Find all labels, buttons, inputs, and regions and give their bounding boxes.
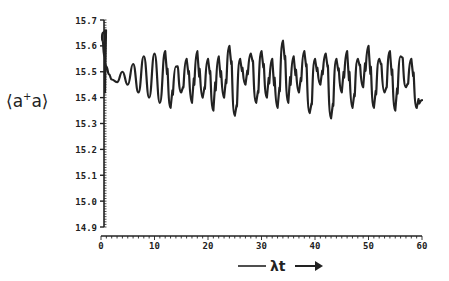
x-tick-label: 0 bbox=[98, 241, 103, 251]
x-axis-label-group: λt bbox=[238, 258, 323, 274]
x-tick-label: 20 bbox=[203, 241, 214, 251]
y-axis-label: ⟨a+a⟩ bbox=[6, 91, 49, 111]
y-tick-label: 15.2 bbox=[75, 145, 97, 155]
y-tick-label: 15.7 bbox=[75, 16, 97, 26]
x-tick-label: 50 bbox=[363, 241, 374, 251]
y-tick-label: 15.0 bbox=[75, 197, 97, 207]
data-series-line bbox=[102, 30, 422, 118]
x-tick-label: 30 bbox=[256, 241, 267, 251]
line-chart: 14.915.015.115.215.315.415.515.615.7 010… bbox=[0, 0, 449, 281]
y-tick-label: 14.9 bbox=[75, 223, 97, 233]
x-axis: 0102030405060 bbox=[98, 236, 427, 251]
y-axis: 14.915.015.115.215.315.415.515.615.7 bbox=[75, 16, 106, 233]
x-tick-label: 10 bbox=[149, 241, 160, 251]
y-tick-label: 15.6 bbox=[75, 41, 97, 51]
y-tick-label: 15.4 bbox=[75, 93, 97, 103]
x-axis-label: λt bbox=[270, 258, 286, 274]
x-tick-label: 60 bbox=[417, 241, 428, 251]
y-tick-label: 15.1 bbox=[75, 171, 97, 181]
x-tick-label: 40 bbox=[310, 241, 321, 251]
y-tick-label: 15.5 bbox=[75, 67, 97, 77]
y-tick-label: 15.3 bbox=[75, 119, 97, 129]
right-arrow-icon bbox=[295, 261, 323, 271]
